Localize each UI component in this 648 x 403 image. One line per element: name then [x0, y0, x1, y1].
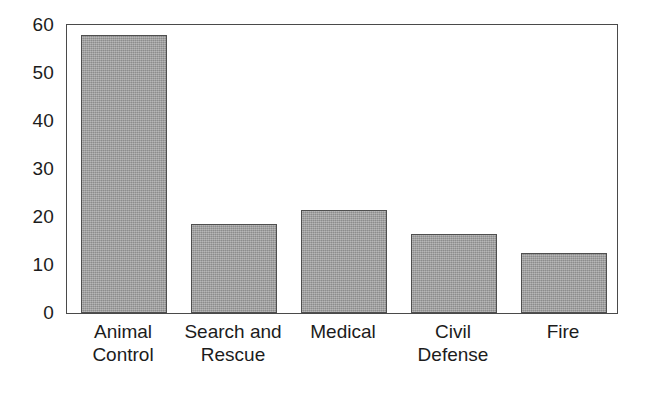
- x-tick-line1: Animal: [94, 321, 152, 342]
- y-tick-label: 10: [8, 255, 54, 274]
- bar-medical: [301, 210, 387, 313]
- x-tick-line1: Search and: [184, 321, 281, 342]
- x-tick-line2: Rescue: [177, 343, 289, 366]
- bar-civil-defense: [411, 234, 497, 313]
- bar-search-and-rescue: [191, 224, 277, 313]
- y-tick-label: 50: [8, 63, 54, 82]
- y-axis: 60 50 40 30 20 10 0: [8, 0, 54, 403]
- x-tick-label-search-and-rescue: Search and Rescue: [177, 320, 289, 366]
- y-tick-label: 0: [8, 303, 54, 322]
- x-tick-label-fire: Fire: [507, 320, 619, 343]
- x-tick-line2: Defense: [397, 343, 509, 366]
- y-tick-label: 60: [8, 15, 54, 34]
- x-tick-line1: Fire: [547, 321, 580, 342]
- y-tick-label: 30: [8, 159, 54, 178]
- y-tick-label: 20: [8, 207, 54, 226]
- x-tick-label-medical: Medical: [287, 320, 399, 343]
- x-tick-line1: Civil: [435, 321, 471, 342]
- bar-animal-control: [81, 35, 167, 313]
- y-tick-label: 40: [8, 111, 54, 130]
- bars-layer: [67, 25, 617, 313]
- x-tick-label-civil-defense: Civil Defense: [397, 320, 509, 366]
- plot-area: [66, 24, 618, 314]
- bar-fire: [521, 253, 607, 313]
- x-tick-line1: Medical: [310, 321, 375, 342]
- x-tick-label-animal-control: Animal Control: [67, 320, 179, 366]
- bar-chart: 60 50 40 30 20 10 0 Animal Control Searc…: [0, 0, 648, 403]
- x-axis: Animal Control Search and Rescue Medical…: [66, 320, 618, 396]
- x-tick-line2: Control: [67, 343, 179, 366]
